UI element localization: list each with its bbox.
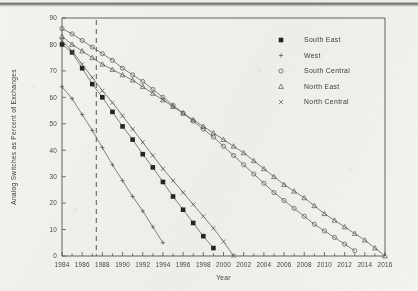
data-point-marker (151, 165, 156, 170)
data-point-marker (140, 152, 145, 157)
y-tick-label: 20 (50, 199, 58, 206)
x-tick-label: 2000 (216, 261, 231, 268)
data-point-marker (110, 110, 115, 115)
x-tick-label: 2008 (297, 261, 312, 268)
y-axis-ticks (62, 18, 66, 256)
y-tick-label: 70 (50, 67, 58, 74)
x-tick-label: 1994 (156, 261, 171, 268)
data-point-marker (171, 179, 175, 183)
legend-label: South East (304, 36, 341, 43)
x-tick-label: 1984 (55, 261, 70, 268)
data-point-marker (181, 190, 185, 194)
x-tick-label: 1996 (176, 261, 191, 268)
y-tick-label: 50 (50, 120, 58, 127)
data-point-marker (191, 202, 195, 206)
data-point-marker (120, 124, 125, 129)
data-point-marker (100, 89, 104, 93)
y-tick-label: 90 (50, 14, 58, 21)
x-axis-tick-labels: 1984198619881990199219941996199820002002… (55, 261, 393, 268)
data-point-marker (279, 69, 283, 73)
y-tick-label: 60 (50, 94, 58, 101)
data-series-group (60, 26, 388, 258)
line-chart: 1984198619881990199219941996199820002002… (0, 0, 418, 291)
data-point-marker (80, 62, 84, 66)
data-point-marker (110, 101, 114, 105)
x-tick-label: 1998 (196, 261, 211, 268)
legend-item: South Central (279, 67, 350, 74)
data-point-marker (90, 128, 94, 132)
x-tick-label: 1988 (95, 261, 110, 268)
data-point-marker (120, 179, 124, 183)
data-point-marker (131, 127, 135, 131)
x-tick-label: 2010 (317, 261, 332, 268)
data-point-marker (279, 38, 284, 43)
series-south-central (60, 26, 357, 252)
data-point-marker (171, 194, 176, 199)
y-tick-label: 10 (50, 226, 58, 233)
data-point-marker (100, 145, 104, 149)
x-tick-label: 2004 (256, 261, 271, 268)
legend-label: North Central (304, 98, 349, 105)
data-point-marker (80, 112, 84, 116)
data-point-marker (161, 241, 165, 245)
y-tick-label: 0 (53, 252, 57, 259)
data-point-marker (161, 180, 166, 185)
data-point-marker (60, 42, 65, 47)
legend-item: West (279, 52, 321, 59)
y-tick-label: 40 (50, 147, 58, 154)
data-point-marker (151, 153, 155, 157)
legend-item: North Central (279, 98, 349, 105)
x-tick-label: 1986 (75, 261, 90, 268)
series-west (60, 85, 165, 245)
x-tick-label: 1992 (135, 261, 150, 268)
x-axis-title: Year (216, 274, 231, 281)
x-tick-label: 2014 (357, 261, 372, 268)
data-point-marker (279, 84, 284, 88)
chart-legend: South EastWestSouth CentralNorth EastNor… (279, 36, 351, 105)
data-point-marker (279, 100, 283, 104)
series-south-east (60, 42, 216, 250)
x-tick-label: 2016 (378, 261, 393, 268)
data-point-marker (90, 82, 95, 87)
x-axis-ticks (62, 252, 385, 256)
series-north-central (60, 38, 236, 258)
data-point-marker (279, 53, 283, 57)
data-point-marker (130, 137, 135, 142)
x-tick-label: 2002 (236, 261, 251, 268)
legend-item: North East (279, 83, 340, 90)
data-point-marker (151, 225, 155, 229)
x-tick-label: 2006 (277, 261, 292, 268)
data-point-marker (211, 226, 215, 230)
legend-label: South Central (304, 67, 350, 74)
data-point-marker (141, 140, 145, 144)
legend-item: South East (279, 36, 341, 43)
y-tick-label: 80 (50, 41, 58, 48)
data-point-marker (221, 239, 225, 243)
data-point-marker (211, 246, 216, 251)
legend-label: North East (304, 83, 340, 90)
data-point-marker (120, 114, 124, 118)
data-point-marker (161, 167, 165, 171)
x-tick-label: 2012 (337, 261, 352, 268)
data-point-marker (201, 214, 205, 218)
data-point-marker (100, 95, 105, 100)
chart-svg: 1984198619881990199219941996199820002002… (0, 0, 418, 291)
data-point-marker (181, 207, 186, 212)
y-tick-label: 30 (50, 173, 58, 180)
data-point-marker (110, 163, 114, 167)
data-point-marker (201, 234, 206, 239)
legend-label: West (304, 52, 321, 59)
x-tick-label: 1990 (115, 261, 130, 268)
data-point-marker (191, 221, 196, 226)
y-axis-title: Analog Switches as Percent of Exchanges (10, 69, 18, 205)
y-axis-tick-labels: 0102030405060708090 (50, 14, 58, 259)
data-point-marker (90, 75, 94, 79)
